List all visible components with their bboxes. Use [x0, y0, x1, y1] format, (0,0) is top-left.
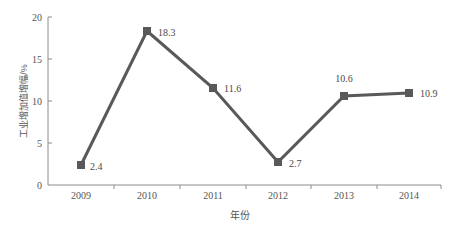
x-axis-title: 年份: [230, 209, 250, 221]
data-label-2010: 18.3: [158, 27, 176, 38]
x-label-2011: 2011: [203, 190, 223, 201]
y-tick-label-20: 20: [32, 12, 42, 23]
data-label-2012: 2.7: [289, 158, 302, 169]
y-axis-title: 工业增加值增幅/%: [18, 64, 29, 138]
x-label-2010: 2010: [137, 190, 157, 201]
x-label-2009: 2009: [71, 190, 91, 201]
data-label-2014: 10.9: [420, 88, 438, 99]
x-label-2012: 2012: [268, 190, 288, 201]
x-label-2013: 2013: [334, 190, 354, 201]
data-point-2012[interactable]: [274, 158, 282, 166]
series-line-industrial-growth: [81, 31, 409, 165]
data-point-2013[interactable]: [340, 92, 348, 100]
data-point-2011[interactable]: [209, 84, 217, 92]
data-point-2010[interactable]: [143, 27, 151, 35]
data-label-2009: 2.4: [90, 161, 103, 172]
data-point-2009[interactable]: [77, 161, 85, 169]
data-label-2011: 11.6: [224, 83, 241, 94]
x-label-2014: 2014: [399, 190, 419, 201]
y-tick-label-5: 5: [37, 138, 42, 149]
data-label-2013: 10.6: [335, 73, 353, 84]
line-chart: 20 15 10 5 0 2009 2010 2011 2012 2013 20…: [0, 0, 453, 234]
y-tick-label-15: 15: [32, 54, 42, 65]
chart-canvas: 20 15 10 5 0 2009 2010 2011 2012 2013 20…: [0, 0, 453, 234]
y-tick-label-0: 0: [37, 180, 42, 191]
y-tick-label-10: 10: [32, 96, 42, 107]
data-point-2014[interactable]: [405, 89, 413, 97]
